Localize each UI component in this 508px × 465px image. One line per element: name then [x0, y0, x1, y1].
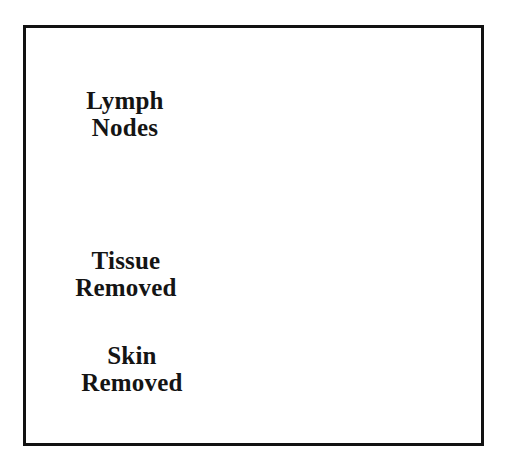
- label-tissue-removed-line2: Removed: [56, 275, 196, 302]
- label-tissue-removed-line1: Tissue: [56, 248, 196, 275]
- label-lymph-nodes: Lymph Nodes: [66, 88, 184, 141]
- label-skin-removed-line2: Removed: [62, 370, 202, 397]
- illustration-figure: Lymph Nodes Tissue Removed Skin Removed: [0, 0, 508, 465]
- label-skin-removed: Skin Removed: [62, 343, 202, 396]
- label-skin-removed-line1: Skin: [62, 343, 202, 370]
- label-lymph-nodes-line2: Nodes: [66, 115, 184, 142]
- label-tissue-removed: Tissue Removed: [56, 248, 196, 301]
- label-lymph-nodes-line1: Lymph: [66, 88, 184, 115]
